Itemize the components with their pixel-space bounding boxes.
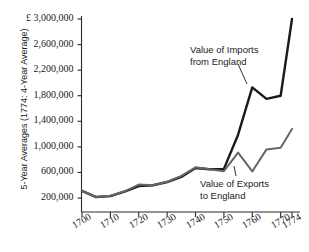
y-tick-label: 2,600,000	[14, 38, 74, 49]
y-tick-label: 600,000	[14, 165, 74, 176]
y-tick-label: 200,000	[14, 191, 74, 202]
y-tick-label: 1,800,000	[14, 89, 74, 100]
annotation-line: Value of Imports	[190, 44, 258, 56]
annotation-line: to England	[200, 190, 269, 202]
y-tick-label: 1,400,000	[14, 114, 74, 125]
y-tick-label: £ 3,000,000	[14, 12, 74, 23]
y-tick-label: 2,200,000	[14, 63, 74, 74]
annotation-line: from England	[190, 56, 258, 68]
annotation-exports: Value of Exportsto England	[200, 178, 269, 201]
annotation-imports: Value of Importsfrom England	[190, 44, 258, 67]
chart-container: 5-Year Averages (1774: 4-Year Average) £…	[0, 0, 309, 252]
y-axis-ticks	[78, 19, 82, 198]
y-tick-label: 1,000,000	[14, 140, 74, 151]
series-line-imports	[82, 19, 292, 197]
annotation-leader-lines	[234, 64, 247, 176]
annotation-line: Value of Exports	[200, 178, 269, 190]
